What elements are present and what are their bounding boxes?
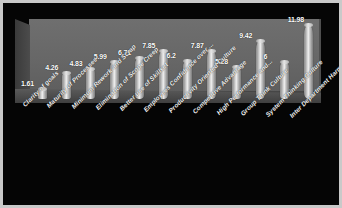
category-axis-labels: Clarity of goalsMaturity of ProcessesMin… <box>3 101 339 205</box>
chart-canvas: 1.614.264.835.996.717.856.27.875.289.426… <box>3 3 339 205</box>
bar-series: 1.614.264.835.996.717.856.27.875.289.426… <box>30 19 321 99</box>
bar[interactable] <box>304 25 313 99</box>
bar-value-label: 11.98 <box>288 16 328 23</box>
chart-frame: 1.614.264.835.996.717.856.27.875.289.426… <box>0 0 342 208</box>
